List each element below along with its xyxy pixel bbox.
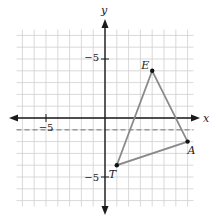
y-tick-label-bottom: −5 bbox=[84, 172, 99, 183]
y-axis-arrow-up-icon bbox=[102, 19, 109, 28]
y-axis-label: y bbox=[100, 4, 108, 17]
y-axis-arrow-down-icon bbox=[102, 206, 109, 215]
x-tick-label-left: −5 bbox=[39, 122, 54, 133]
vertex-point-t bbox=[115, 163, 119, 167]
vertex-label-a: A bbox=[187, 144, 196, 157]
y-tick-label-top: −5 bbox=[84, 52, 99, 63]
vertex-label-e: E bbox=[140, 59, 149, 72]
vertex-point-e bbox=[150, 69, 154, 73]
x-axis-arrow-left-icon bbox=[9, 115, 18, 122]
x-axis-label: x bbox=[203, 112, 210, 125]
coordinate-plane: EAT y x −5 −5 −5 bbox=[0, 0, 219, 223]
axes bbox=[9, 19, 200, 215]
x-axis-arrow-right-icon bbox=[191, 115, 200, 122]
